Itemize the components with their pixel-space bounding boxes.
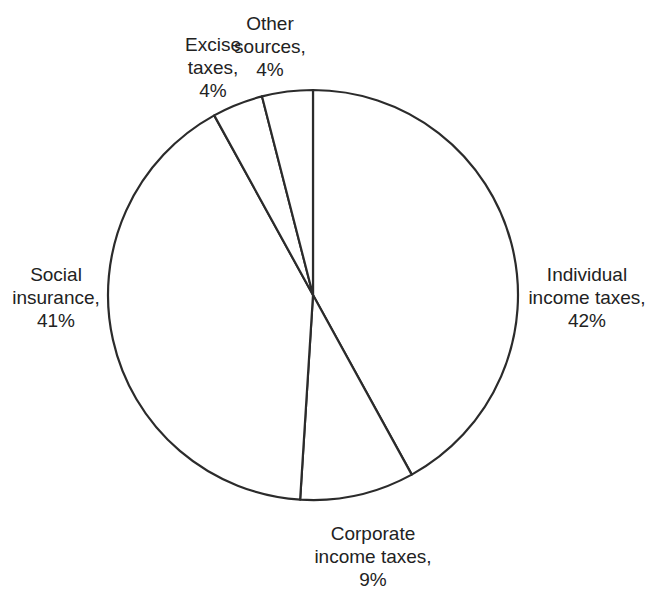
slice-label-individual-income-taxes: Individualincome taxes,42% [528, 264, 645, 331]
slice-name-label: Individual [547, 264, 627, 285]
slice-label-excise-taxes: Excisetaxes,4% [185, 34, 241, 101]
pie-chart: Individualincome taxes,42%Corporateincom… [0, 0, 650, 594]
slice-label-corporate-income-taxes: Corporateincome taxes,9% [314, 523, 431, 590]
slice-value-label: 4% [256, 59, 284, 80]
slice-value-label: 4% [199, 80, 227, 101]
slice-name-label: Excise [185, 34, 241, 55]
slice-name-label: Corporate [331, 523, 416, 544]
slice-value-label: 42% [568, 310, 606, 331]
slice-name-label: income taxes, [528, 287, 645, 308]
slice-name-label: Other [246, 13, 294, 34]
slice-value-label: 9% [359, 569, 387, 590]
slice-name-label: insurance, [12, 287, 100, 308]
slice-value-label: 41% [37, 310, 75, 331]
slice-label-social-insurance: Socialinsurance,41% [12, 264, 100, 331]
slice-name-label: income taxes, [314, 546, 431, 567]
slice-name-label: taxes, [188, 57, 239, 78]
slice-name-label: Social [30, 264, 82, 285]
slice-label-other-sources: Othersources,4% [234, 13, 306, 80]
slice-name-label: sources, [234, 36, 306, 57]
pie-slices [108, 90, 518, 500]
